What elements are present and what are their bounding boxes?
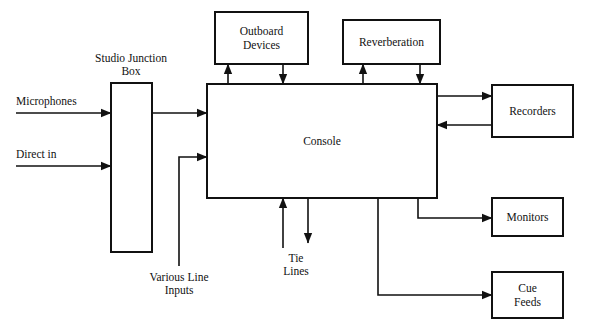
box-label-monitors: Monitors <box>506 211 549 223</box>
studio-junction-box-label: Studio JunctionBox <box>95 52 167 77</box>
box-console: Console <box>207 84 437 198</box>
box-monitors: Monitors <box>492 198 563 236</box>
box-studio-junction-box <box>111 83 152 252</box>
box-outline-studio-junction-box <box>111 83 152 252</box>
various-line-inputs-label-line-1: Inputs <box>165 284 194 297</box>
box-outline-cue-feeds <box>492 272 563 318</box>
box-reverberation: Reverberation <box>343 20 440 64</box>
box-label-console: Console <box>303 135 341 147</box>
microphones-label-line-0: Microphones <box>16 95 77 108</box>
direct-in-label-line-0: Direct in <box>16 148 57 160</box>
tie-lines-label-line-0: Tie <box>289 252 304 264</box>
studio-junction-box-label-line-1: Box <box>121 65 140 77</box>
signal-flow-diagram: OutboardDevicesReverberationConsoleRecor… <box>0 0 590 333</box>
box-recorders: Recorders <box>492 85 573 137</box>
box-label-outboard-devices: Devices <box>243 39 281 51</box>
signal-flow-canvas: OutboardDevicesReverberationConsoleRecor… <box>0 0 590 333</box>
connection-various-line-inputs-to-console <box>179 157 207 266</box>
box-label-cue-feeds: Cue <box>518 282 537 294</box>
box-cue-feeds: CueFeeds <box>492 272 563 318</box>
box-outboard-devices: OutboardDevices <box>215 12 308 64</box>
box-label-outboard-devices: Outboard <box>240 25 284 37</box>
tie-lines-label: TieLines <box>283 252 309 277</box>
microphones-label: Microphones <box>16 95 77 108</box>
direct-in-label: Direct in <box>16 148 57 160</box>
box-label-reverberation: Reverberation <box>359 36 424 48</box>
various-line-inputs-label: Various LineInputs <box>149 271 208 297</box>
studio-junction-box-label-line-0: Studio Junction <box>95 52 167 64</box>
box-label-cue-feeds: Feeds <box>514 296 541 308</box>
connection-console-to-monitors <box>418 198 492 218</box>
tie-lines-label-line-1: Lines <box>283 265 309 277</box>
box-outline-outboard-devices <box>215 12 308 64</box>
various-line-inputs-label-line-0: Various Line <box>149 271 208 283</box>
connection-console-to-cue-feeds <box>378 198 492 295</box>
box-label-recorders: Recorders <box>509 105 556 117</box>
